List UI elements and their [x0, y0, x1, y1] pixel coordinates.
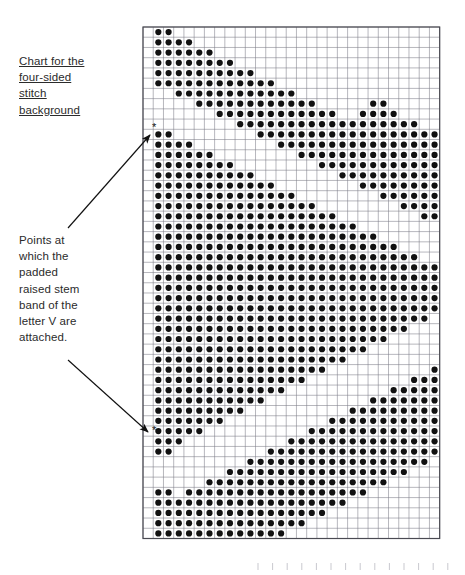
chart-dot: [350, 244, 356, 250]
chart-dot: [309, 111, 315, 117]
chart-dot: [329, 223, 335, 229]
chart-dot: [268, 203, 274, 209]
chart-dot: [186, 275, 192, 281]
chart-dot: [278, 387, 284, 393]
chart-dot: [431, 448, 437, 454]
chart-dot: [370, 438, 376, 444]
chart-dot: [165, 193, 171, 199]
chart-dot: [247, 70, 253, 76]
chart-dot: [268, 111, 274, 117]
chart-dot: [165, 315, 171, 321]
chart-dot: [258, 254, 264, 260]
chart-dot: [186, 489, 192, 495]
chart-dot: [165, 408, 171, 414]
chart-dot: [258, 131, 264, 137]
chart-dot: [401, 172, 407, 178]
chart-dot: [237, 377, 243, 383]
chart-dot: [196, 162, 202, 168]
chart-dot: [186, 70, 192, 76]
chart-dot: [247, 121, 253, 127]
chart-dot: [431, 275, 437, 281]
chart-dot: [165, 346, 171, 352]
chart-dot: [268, 336, 274, 342]
chart-dot: [380, 152, 386, 158]
chart-dot: [247, 182, 253, 188]
chart-dot: [288, 377, 294, 383]
chart-dot: [206, 49, 212, 55]
chart-dot: [391, 111, 397, 117]
chart-dot: [186, 428, 192, 434]
chart-dot: [268, 131, 274, 137]
chart-dot: [411, 459, 417, 465]
chart-dot: [237, 295, 243, 301]
chart-dot: [268, 387, 274, 393]
chart-dot: [411, 193, 417, 199]
chart-dot: [268, 182, 274, 188]
chart-page: Chart for thefour-sidedstitchbackground …: [0, 0, 465, 575]
chart-dot: [431, 377, 437, 383]
chart-dot: [217, 182, 223, 188]
chart-dot: [155, 203, 161, 209]
chart-dot: [176, 356, 182, 362]
chart-dot: [237, 397, 243, 403]
chart-dot: [298, 356, 304, 362]
chart-dot: [206, 346, 212, 352]
chart-dot: [401, 326, 407, 332]
chart-dot: [391, 397, 397, 403]
chart-dot: [370, 479, 376, 485]
chart-dot: [258, 244, 264, 250]
chart-dot: [237, 510, 243, 516]
chart-dot: [421, 428, 427, 434]
chart-dot: [421, 193, 427, 199]
chart-dot: [411, 387, 417, 393]
chart-dot: [411, 254, 417, 260]
chart-dot: [278, 479, 284, 485]
chart-dot: [258, 489, 264, 495]
chart-dot: [421, 315, 427, 321]
chart-dot: [155, 500, 161, 506]
chart-dot: [155, 367, 161, 373]
chart-dot: [186, 387, 192, 393]
chart-dot: [247, 90, 253, 96]
chart-dot: [165, 336, 171, 342]
chart-dot: [421, 264, 427, 270]
chart-dot: [288, 315, 294, 321]
chart-dot: [360, 182, 366, 188]
chart-dot: [258, 520, 264, 526]
chart-dot: [298, 254, 304, 260]
chart-dot: [380, 305, 386, 311]
chart-dot: [186, 397, 192, 403]
chart-dot: [165, 530, 171, 536]
chart-dot: [165, 182, 171, 188]
chart-dot: [350, 254, 356, 260]
chart-dot: [247, 193, 253, 199]
chart-dot: [391, 469, 397, 475]
chart-dot: [401, 438, 407, 444]
chart-dot: [237, 111, 243, 117]
chart-dot: [206, 377, 212, 383]
chart-dot: [360, 408, 366, 414]
chart-dot: [165, 295, 171, 301]
chart-dot: [247, 326, 253, 332]
chart-dot: [165, 142, 171, 148]
chart-dot: [165, 305, 171, 311]
chart-dot: [278, 223, 284, 229]
chart-dot: [196, 356, 202, 362]
chart-dot: [288, 101, 294, 107]
chart-dot: [247, 336, 253, 342]
chart-dot: [206, 397, 212, 403]
chart-dot: [268, 530, 274, 536]
chart-dot: [391, 448, 397, 454]
chart-dot: [155, 264, 161, 270]
chart-dot: [288, 295, 294, 301]
chart-dot: [206, 162, 212, 168]
chart-dot: [401, 469, 407, 475]
chart-dot: [155, 254, 161, 260]
chart-dot: [431, 367, 437, 373]
chart-dot: [206, 530, 212, 536]
chart-dot: [309, 459, 315, 465]
chart-dot: [339, 346, 345, 352]
chart-dot: [206, 326, 212, 332]
chart-dot: [350, 326, 356, 332]
chart-dot: [196, 315, 202, 321]
